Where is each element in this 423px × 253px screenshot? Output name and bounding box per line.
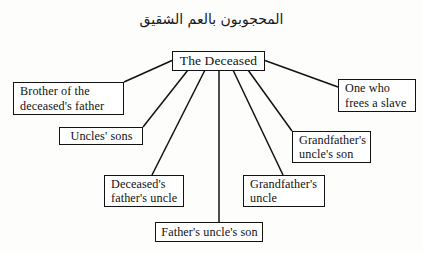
node-brother-of-deceaseds-father-line-2: deceased's father — [20, 99, 104, 113]
node-deceaseds-fathers-uncle-line-2: father's uncle — [111, 191, 177, 205]
node-deceaseds-fathers-uncle-line-1: Deceased's — [111, 177, 166, 191]
edge-to-brother-of-deceaseds-father — [124, 61, 172, 83]
edge-to-one-who-frees-a-slave — [265, 61, 338, 88]
node-the-deceased-line-1: The Deceased — [180, 53, 257, 69]
node-fathers-uncles-son[interactable]: Father's uncle's son — [155, 222, 263, 242]
edge-to-grandfathers-uncles-son — [248, 70, 292, 131]
node-grandfathers-uncle-line-1: Grandfather's — [250, 177, 317, 191]
node-the-deceased[interactable]: The Deceased — [172, 51, 265, 71]
node-fathers-uncles-son-line-1: Father's uncle's son — [161, 225, 257, 239]
node-grandfathers-uncles-son-line-2: uncle's son — [299, 147, 353, 161]
node-one-who-frees-a-slave-line-1: One who — [345, 81, 390, 95]
node-brother-of-deceaseds-father-line-1: Brother of the — [20, 84, 90, 98]
edge-to-grandfathers-uncle — [233, 70, 283, 175]
node-uncles-sons-line-1: Uncles' sons — [71, 129, 133, 143]
node-one-who-frees-a-slave-line-2: frees a slave — [345, 96, 407, 110]
node-grandfathers-uncle[interactable]: Grandfather's uncle — [243, 175, 325, 207]
node-grandfathers-uncles-son[interactable]: Grandfather's uncle's son — [292, 131, 371, 163]
node-deceaseds-fathers-uncle[interactable]: Deceased's father's uncle — [104, 175, 184, 207]
node-grandfathers-uncle-line-2: uncle — [250, 191, 277, 205]
inheritance-exclusion-diagram: المحجوبون بالعم الشقيق The Deceased Brot… — [0, 0, 423, 253]
node-brother-of-deceaseds-father[interactable]: Brother of the deceased's father — [13, 82, 124, 115]
node-uncles-sons[interactable]: Uncles' sons — [59, 127, 143, 145]
node-grandfathers-uncles-son-line-1: Grandfather's — [299, 133, 366, 147]
node-one-who-frees-a-slave[interactable]: One who frees a slave — [338, 79, 416, 112]
edge-to-deceaseds-fathers-uncle — [152, 70, 205, 175]
